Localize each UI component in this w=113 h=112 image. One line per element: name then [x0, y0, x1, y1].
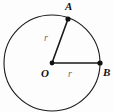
point-marker-b — [97, 60, 102, 65]
geometry-canvas — [0, 0, 113, 112]
point-marker-o — [50, 61, 55, 66]
radius-label-ob: r — [68, 69, 72, 79]
point-label-a: A — [65, 1, 72, 12]
circle-radius-figure: A O B r r — [0, 0, 113, 112]
radius-segment-oa — [52, 19, 68, 63]
point-label-o: O — [41, 68, 49, 79]
radius-label-oa: r — [44, 33, 48, 43]
point-marker-a — [65, 16, 70, 21]
point-label-b: B — [103, 67, 110, 78]
